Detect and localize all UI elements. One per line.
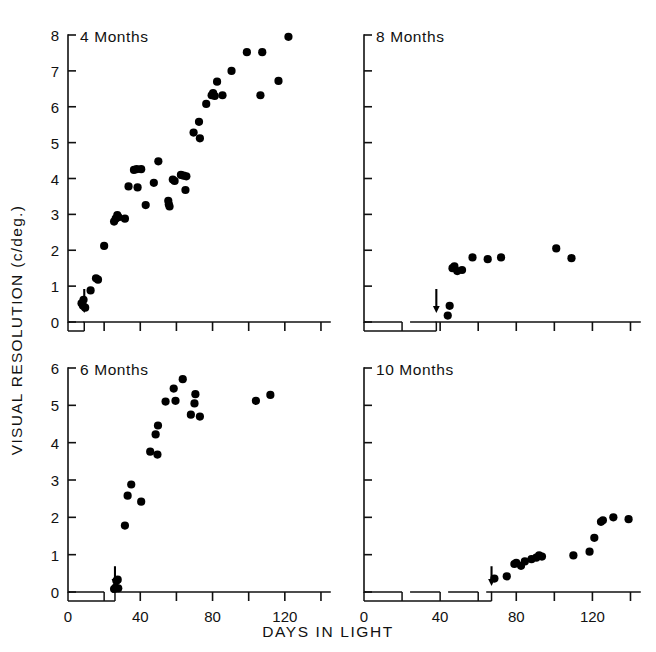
data-point — [124, 182, 132, 190]
data-point — [150, 179, 158, 187]
data-point — [146, 448, 154, 456]
data-point — [190, 399, 198, 407]
panel-title: 4 Months — [80, 28, 149, 45]
data-points — [77, 33, 292, 312]
x-tick-label: 80 — [204, 608, 221, 625]
data-point — [569, 551, 577, 559]
y-tick-label: 5 — [51, 397, 59, 414]
data-point — [100, 242, 108, 250]
data-point — [154, 157, 162, 165]
figure-root: 0123456784 Months8 Months012345604080120… — [0, 0, 656, 652]
data-point — [133, 183, 141, 191]
panel-title: 8 Months — [376, 28, 445, 45]
panel-4-months — [68, 33, 330, 331]
x-tick-label: 40 — [432, 608, 449, 625]
data-point — [124, 492, 132, 500]
x-axis-break — [68, 592, 115, 601]
data-point — [211, 92, 219, 100]
y-tick-label: 4 — [51, 435, 59, 452]
y-tick-label: 2 — [51, 509, 59, 526]
data-point — [153, 451, 161, 459]
data-point — [484, 255, 492, 263]
data-point — [127, 480, 135, 488]
y-axis-title: VISUAL RESOLUTION (c/deg.) — [8, 205, 25, 455]
data-point — [121, 521, 129, 529]
data-point — [114, 576, 122, 584]
data-point — [609, 513, 617, 521]
data-point — [86, 286, 94, 294]
data-point — [79, 296, 87, 304]
data-point — [171, 177, 179, 185]
data-point — [585, 548, 593, 556]
data-point — [152, 430, 160, 438]
data-point — [195, 118, 203, 126]
scatter-panel-figure: 0123456784 Months8 Months012345604080120… — [0, 0, 656, 652]
data-point — [284, 33, 292, 41]
data-point — [137, 498, 145, 506]
y-tick-label: 1 — [51, 278, 59, 295]
y-tick-label: 3 — [51, 472, 59, 489]
y-tick-label: 1 — [51, 547, 59, 564]
data-point — [114, 584, 122, 592]
data-point — [142, 201, 150, 209]
panel-title: 6 Months — [80, 361, 149, 378]
y-tick-label: 6 — [51, 99, 59, 116]
panel-title: 10 Months — [376, 361, 454, 378]
x-axis-break — [364, 322, 436, 331]
data-point — [624, 515, 632, 523]
data-point — [490, 574, 498, 582]
data-point — [538, 552, 546, 560]
data-points — [110, 375, 274, 593]
y-tick-label: 6 — [51, 360, 59, 377]
data-point — [81, 304, 89, 312]
y-tick-label: 2 — [51, 242, 59, 259]
data-point — [191, 390, 199, 398]
data-point — [161, 398, 169, 406]
data-point — [170, 384, 178, 392]
data-point — [189, 128, 197, 136]
data-point — [444, 311, 452, 319]
y-tick-label: 8 — [51, 27, 59, 44]
data-point — [196, 412, 204, 420]
data-point — [446, 302, 454, 310]
data-point — [599, 516, 607, 524]
x-tick-label: 80 — [508, 608, 525, 625]
data-point — [468, 253, 476, 261]
data-points — [490, 513, 632, 582]
x-tick-label: 0 — [64, 608, 72, 625]
y-tick-label: 0 — [51, 314, 59, 331]
data-point — [252, 397, 260, 405]
panel-6-months — [68, 368, 330, 601]
data-point — [552, 244, 560, 252]
x-tick-label: 120 — [580, 608, 605, 625]
data-point — [243, 48, 251, 56]
data-point — [181, 186, 189, 194]
data-point — [567, 254, 575, 262]
data-point — [590, 534, 598, 542]
panel-10-months — [364, 368, 640, 601]
onset-arrow-icon — [433, 289, 440, 313]
data-point — [497, 253, 505, 261]
y-tick-label: 4 — [51, 171, 59, 188]
x-tick-label: 40 — [132, 608, 149, 625]
data-point — [121, 215, 129, 223]
y-tick-label: 0 — [51, 584, 59, 601]
data-point — [274, 77, 282, 85]
y-tick-label: 7 — [51, 63, 59, 80]
data-point — [458, 266, 466, 274]
x-axis-title: DAYS IN LIGHT — [262, 623, 394, 640]
y-tick-label: 5 — [51, 135, 59, 152]
data-point — [266, 391, 274, 399]
data-point — [196, 134, 204, 142]
data-point — [179, 375, 187, 383]
y-tick-label: 3 — [51, 206, 59, 223]
data-point — [165, 202, 173, 210]
x-axis-break — [68, 322, 84, 331]
data-point — [503, 572, 511, 580]
data-point — [187, 411, 195, 419]
data-point — [227, 67, 235, 75]
data-point — [218, 91, 226, 99]
data-point — [171, 397, 179, 405]
panel-8-months — [364, 35, 640, 331]
data-point — [137, 165, 145, 173]
